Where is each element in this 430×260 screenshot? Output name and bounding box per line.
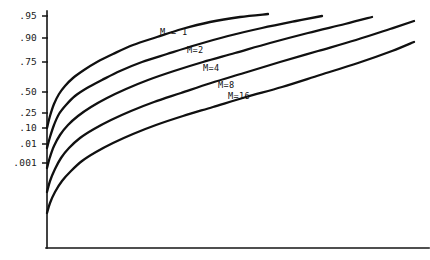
curve-series-m-8 (47, 21, 414, 192)
curve-label-m-16: M=16 (228, 91, 250, 101)
data-curves (47, 14, 414, 213)
y-axis-tick-label: .75 (19, 56, 37, 67)
curve-series-m-4 (47, 17, 372, 168)
curve-series-m-1 (47, 14, 268, 128)
chart-container: .95.90.75.50.25.10.01.001 M = 1M=2M=4M=8… (0, 0, 430, 260)
curve-series-m-16 (47, 42, 414, 213)
y-axis-tick-label: .10 (19, 122, 37, 133)
probability-curves-chart: .95.90.75.50.25.10.01.001 M = 1M=2M=4M=8… (0, 0, 430, 260)
y-axis-tick-label: .90 (19, 32, 37, 43)
y-axis-tick-label: .001 (13, 157, 37, 168)
curve-label-m-8: M=8 (218, 80, 234, 90)
curve-label-m-4: M=4 (203, 63, 219, 73)
y-axis-tick-label: .01 (19, 138, 37, 149)
y-axis-tick-labels: .95.90.75.50.25.10.01.001 (13, 10, 37, 168)
y-axis-tick-label: .25 (19, 107, 37, 118)
y-axis-tick-label: .50 (19, 86, 37, 97)
curve-label-m-1: M = 1 (160, 27, 187, 37)
y-axis-tick-label: .95 (19, 10, 37, 21)
curve-label-m-2: M=2 (187, 45, 203, 55)
chart-axes (46, 11, 429, 248)
curve-series-labels: M = 1M=2M=4M=8M=16 (160, 27, 250, 101)
